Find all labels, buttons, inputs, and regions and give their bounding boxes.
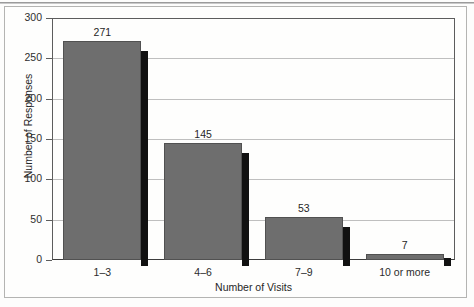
bar[interactable]: 53 [265,217,343,260]
y-tick-mark [46,260,52,261]
x-axis-title: Number of Visits [52,281,455,293]
x-tick-label: 1–3 [94,266,112,278]
bar-value-label: 271 [94,26,112,38]
bar-value-label: 53 [298,202,310,214]
x-tick-label: 7–9 [295,266,313,278]
y-tick-label: 250 [0,51,42,63]
bar-body [265,217,343,260]
y-axis-title: Number of Responses [22,36,34,216]
bar-chart-figure: 050100150200250300 271145537 1–34–67–910… [0,0,474,307]
scan-artifact-line-secondary [0,3,474,4]
y-tick-label: 50 [0,213,42,225]
bar-shadow [444,258,451,266]
bar-shadow [343,227,350,266]
y-tick-label: 100 [0,172,42,184]
y-tick-label: 150 [0,132,42,144]
bar-shadow [141,51,148,266]
bar-body [366,254,444,260]
bar-value-label: 145 [194,128,212,140]
bar-body [63,41,141,260]
x-tick-label: 10 or more [379,266,430,278]
y-tick-label: 300 [0,11,42,23]
bar-value-label: 7 [402,239,408,251]
bar[interactable]: 7 [366,254,444,260]
bars-layer: 271145537 [52,18,455,260]
bar[interactable]: 145 [164,143,242,260]
bar-body [164,143,242,260]
y-tick-label: 200 [0,92,42,104]
y-tick-label: 0 [0,253,42,265]
bar-shadow [242,153,249,266]
bar[interactable]: 271 [63,41,141,260]
x-tick-label: 4–6 [194,266,212,278]
